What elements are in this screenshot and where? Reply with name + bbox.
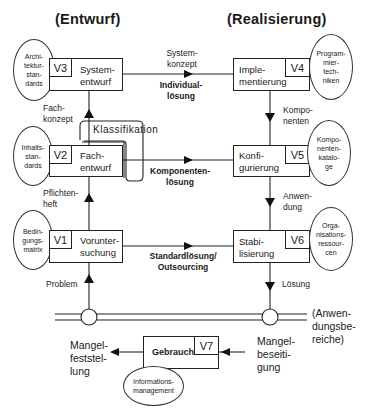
process-label: Vorunter- suchung [80, 235, 119, 259]
process-label: Stabi- lisierung [239, 236, 274, 260]
process-tag: V6 [285, 230, 310, 249]
flow-label-solution: Lösung [282, 279, 310, 290]
process-box-system-design[interactable]: V3 System- entwurf [49, 58, 123, 91]
process-tag: V1 [49, 230, 72, 249]
application-areas-label: (Anwen- dungsbe- reiche) [312, 307, 356, 346]
process-label: System- entwurf [80, 64, 115, 88]
defect-removal-label: Mangel- beseiti- gung [257, 335, 295, 374]
flow-label-problem: Problem [46, 279, 78, 290]
process-box-usage[interactable]: V7 Gebrauch [143, 336, 219, 369]
resource-organizational-resources: Orga- nisations- ressour- cen [309, 207, 353, 271]
resource-condition-matrix: Bedin- gungs- matrix [13, 210, 53, 270]
resource-component-catalogs: Kompo- nenten- katalo- ge [307, 120, 351, 186]
flow-label-application: Anwen- dung [283, 191, 312, 212]
process-box-stabilization[interactable]: V6 Stabi- lisierung [233, 230, 310, 263]
design-phase-heading: (Entwurf) [55, 11, 120, 27]
process-box-implementation[interactable]: V4 Imple- mentierung [233, 58, 310, 91]
process-label: Konfi- gurierung [239, 150, 279, 174]
resource-information-management: Informations- management [123, 366, 184, 406]
flow-label-component-solution: Komponenten- lösung [140, 166, 220, 187]
process-tag: V2 [49, 145, 72, 164]
process-box-functional-design[interactable]: V2 Fach- entwurf [49, 145, 123, 177]
process-label: Gebrauch [152, 346, 194, 358]
flow-label-components: Kompo- nenten [283, 105, 313, 126]
resource-programming-techniques: Program- mier- tech- niken [309, 34, 353, 100]
process-tag: V3 [49, 58, 72, 77]
realization-phase-heading: (Realisierung) [227, 11, 327, 27]
process-label: Imple- mentierung [239, 64, 287, 88]
resource-content-standards: Inhalts- stan- dards [13, 126, 53, 186]
flow-label-standard-solution-outsourcing: Standardlösung/ Outsourcing [140, 251, 226, 272]
flow-label-system-concept: System- konzept [162, 48, 202, 69]
process-label: Fach- entwurf [80, 150, 111, 174]
flow-label-individual-solution: Individual- lösung [146, 80, 216, 101]
flow-label-specification: Pflichten- heft [43, 188, 78, 209]
process-tag: V7 [194, 336, 219, 355]
process-tag: V4 [285, 58, 310, 77]
process-box-configuration[interactable]: V5 Konfi- gurierung [233, 145, 310, 177]
process-box-preliminary-study[interactable]: V1 Vorunter- suchung [49, 230, 123, 263]
defect-detection-label: Mangel- feststel- lung [70, 339, 108, 378]
flow-label-technical-concept: Fach- konzept [43, 103, 73, 124]
classification-label: Klassifikation [93, 124, 158, 135]
